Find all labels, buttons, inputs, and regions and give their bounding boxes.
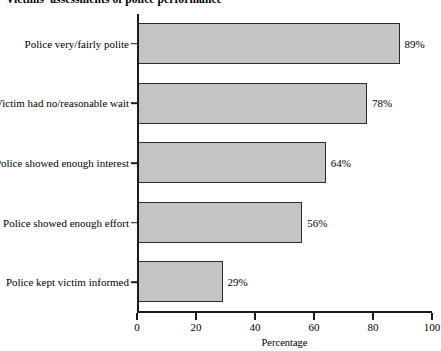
x-tick-label: 60 bbox=[309, 321, 320, 333]
bar-row: 64% bbox=[137, 133, 432, 193]
bar-row: 56% bbox=[137, 193, 432, 253]
bar-value-label: 64% bbox=[326, 157, 351, 169]
x-tick-label: 100 bbox=[424, 321, 441, 333]
x-tick-mark bbox=[136, 313, 138, 320]
category-label-group-4: Police kept victim informed bbox=[0, 252, 137, 312]
x-tick-label: 20 bbox=[191, 321, 202, 333]
category-label-group-2: Police showed enough interest bbox=[0, 133, 137, 193]
category-label-group-0: Police very/fairly polite bbox=[0, 14, 137, 74]
bar[interactable] bbox=[137, 23, 400, 64]
y-axis-line bbox=[137, 14, 139, 312]
bar-value-label: 29% bbox=[223, 276, 248, 288]
x-tick-mark bbox=[372, 313, 374, 320]
bar-value-label: 89% bbox=[400, 38, 425, 50]
x-tick-mark bbox=[195, 313, 197, 320]
x-tick-mark bbox=[254, 313, 256, 320]
category-label-group-1: Victim had no/reasonable wait bbox=[0, 74, 137, 134]
category-label-group-3: Police showed enough effort bbox=[0, 193, 137, 253]
bar-chart-figure: Victims' assessments of police performan… bbox=[0, 0, 441, 351]
plot-area: 89% 78% 64% 56% 29% bbox=[137, 14, 432, 312]
bar[interactable] bbox=[137, 83, 367, 124]
bar-row: 78% bbox=[137, 74, 432, 134]
chart-title: Victims' assessments of police performan… bbox=[6, 0, 306, 7]
x-tick-label: 80 bbox=[368, 321, 379, 333]
category-label: Victim had no/reasonable wait bbox=[0, 97, 129, 109]
bar[interactable] bbox=[137, 142, 326, 183]
x-tick-mark bbox=[431, 313, 433, 320]
category-label: Police kept victim informed bbox=[6, 276, 129, 288]
bar-value-label: 56% bbox=[302, 217, 327, 229]
x-tick-label: 0 bbox=[134, 321, 140, 333]
x-axis-title: Percentage bbox=[137, 337, 432, 348]
category-label: Police showed enough interest bbox=[0, 157, 129, 169]
x-tick-mark bbox=[313, 313, 315, 320]
bar-row: 89% bbox=[137, 14, 432, 74]
x-axis-line bbox=[137, 311, 432, 313]
bar-row: 29% bbox=[137, 252, 432, 312]
bar[interactable] bbox=[137, 261, 223, 302]
category-label: Police very/fairly polite bbox=[25, 38, 129, 50]
x-tick-label: 40 bbox=[250, 321, 261, 333]
bar[interactable] bbox=[137, 202, 302, 243]
bar-value-label: 78% bbox=[367, 97, 392, 109]
category-label: Police showed enough effort bbox=[3, 217, 129, 229]
